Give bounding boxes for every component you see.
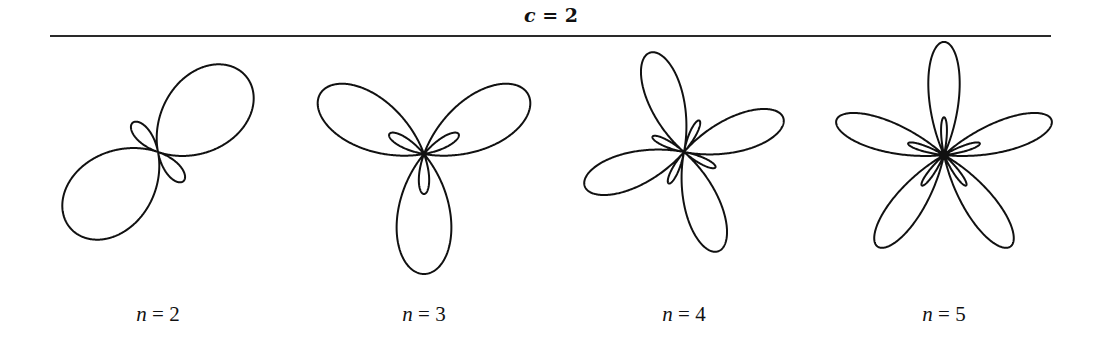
panel-label-n4: n = 4: [624, 302, 744, 327]
panel-label-n2: n = 2: [98, 302, 218, 327]
label-equals: =: [933, 302, 955, 326]
label-equals: =: [413, 302, 435, 326]
panel-label-n3: n = 3: [364, 302, 484, 327]
panel-label-n5: n = 5: [884, 302, 1004, 327]
label-value: 3: [435, 302, 446, 326]
polar-curve-n4: [584, 52, 784, 252]
polar-curve-n2: [62, 64, 253, 239]
polar-curves-canvas: [0, 0, 1102, 343]
label-variable: n: [136, 302, 147, 326]
polar-curve-n3: [318, 84, 531, 274]
label-variable: n: [922, 302, 933, 326]
label-equals: =: [147, 302, 169, 326]
label-value: 4: [695, 302, 706, 326]
polar-curve-n5: [836, 42, 1052, 248]
label-value: 2: [169, 302, 180, 326]
label-equals: =: [673, 302, 695, 326]
label-variable: n: [402, 302, 413, 326]
label-value: 5: [955, 302, 966, 326]
label-variable: n: [662, 302, 673, 326]
